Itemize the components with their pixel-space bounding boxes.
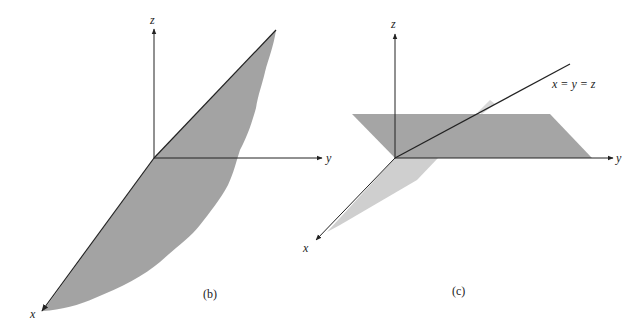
figure-c: z y x x = y = z (c) — [302, 17, 622, 298]
y-label-c: y — [615, 151, 622, 165]
z-label-b: z — [149, 13, 155, 27]
x-label-c: x — [302, 241, 309, 255]
z-label-c: z — [390, 17, 396, 31]
horizontal-plane-c — [352, 114, 592, 158]
diagram-canvas: z y x (b) z y x x = y = z (c) — [0, 0, 641, 335]
y-label-b: y — [325, 151, 332, 165]
vertical-plane-c — [327, 158, 438, 232]
figure-b: z y x (b) — [29, 13, 332, 321]
caption-b: (b) — [203, 287, 217, 301]
plane-b — [43, 30, 276, 311]
x-label-b: x — [29, 307, 36, 321]
line-label-c: x = y = z — [551, 77, 596, 91]
caption-c: (c) — [452, 284, 465, 298]
